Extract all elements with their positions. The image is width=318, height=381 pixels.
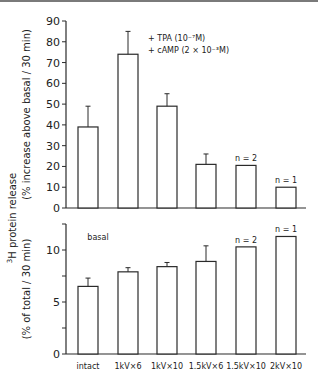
upper-y-tick-label: 60 [46,77,60,90]
legend-camp: + cAMP (2 × 10⁻³M) [148,46,229,55]
chart-svg: 0102030405060708090n = 2n = 1(% increase… [0,0,318,381]
lower-bar-3 [157,267,177,354]
lower-y-axis-label: (% of total / 30 min) [21,239,32,340]
x-category-label: intact [77,362,100,371]
lower-bar-5 [236,247,256,354]
basal-label: basal [87,233,108,242]
lower-bar-2 [118,272,138,354]
upper-bar-5 [236,165,256,208]
upper-bar-4 [196,164,216,208]
x-category-label: 1kV×6 [115,362,142,371]
lower-bar-1 [78,286,98,354]
upper-n-annotation: n = 2 [235,154,257,163]
lower-bar-4 [196,261,216,354]
upper-y-axis-label: (% increase above basal / 30 min) [21,29,32,200]
upper-y-tick-label: 80 [46,36,60,49]
upper-y-tick-label: 70 [46,57,60,70]
shared-y-axis-label-text: H protein release [7,173,18,259]
upper-y-tick-label: 10 [46,181,60,194]
lower-y-tick-label: 5 [53,296,60,309]
lower-y-tick-label: 0 [53,348,60,361]
upper-y-tick-label: 20 [46,160,60,173]
upper-y-tick-label: 30 [46,140,60,153]
upper-y-tick-label: 0 [53,202,60,215]
lower-y-tick-label: 10 [46,244,60,257]
x-category-label: 1.5kV×10 [226,362,266,371]
shared-y-axis-label: 3H protein release [6,173,18,263]
legend-tpa: + TPA (10⁻⁷M) [148,34,205,43]
lower-bar-6 [276,236,296,354]
lower-n-annotation: n = 2 [235,236,257,245]
upper-y-tick-label: 50 [46,98,60,111]
upper-bar-6 [276,187,296,208]
upper-y-tick-label: 90 [46,15,60,28]
x-category-label: 1kV×10 [151,362,183,371]
upper-bar-1 [78,127,98,208]
lower-n-annotation: n = 1 [275,225,297,234]
upper-bar-2 [118,54,138,208]
x-category-label: 2kV×10 [270,362,302,371]
upper-bar-3 [157,106,177,208]
upper-n-annotation: n = 1 [275,176,297,185]
x-category-label: 1.5kV×6 [189,362,224,371]
upper-y-tick-label: 40 [46,119,60,132]
